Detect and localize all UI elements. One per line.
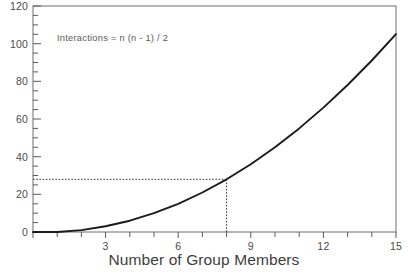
y-tick-label: 80 [2, 75, 28, 87]
chart-annotation: Interactions = n (n - 1) / 2 [57, 33, 168, 43]
chart-figure: 120 100 80 60 40 20 0 3 6 9 12 15 Intera… [0, 0, 408, 275]
y-tick-label: 20 [2, 188, 28, 200]
y-tick-label: 40 [2, 151, 28, 163]
y-tick-label: 120 [2, 0, 28, 12]
x-axis-ticks [33, 232, 396, 238]
y-tick-label: 0 [2, 226, 28, 238]
y-tick-label: 100 [2, 38, 28, 50]
x-axis-title: Number of Group Members [0, 251, 408, 269]
y-tick-label: 60 [2, 113, 28, 125]
